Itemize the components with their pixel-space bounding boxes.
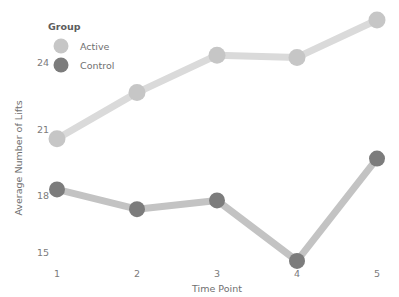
data-point-control-3[interactable] [209,192,225,208]
series-line-active [57,20,377,139]
y-tick-label-24: 24 [37,57,49,68]
legend-label-control[interactable]: Control [80,60,114,71]
series-line-control [57,159,377,261]
data-point-control-1[interactable] [49,181,65,197]
y-tick-label-18: 18 [37,190,49,201]
data-point-active-4[interactable] [289,49,306,66]
line-chart: 24 21 18 15 1 2 3 4 5 Time Point Average… [0,0,399,297]
data-point-control-2[interactable] [129,201,145,217]
x-tick-label-5: 5 [374,268,380,279]
legend-title: Group [48,21,81,32]
data-point-active-1[interactable] [49,130,66,147]
data-point-active-5[interactable] [369,12,386,29]
chart-canvas: 24 21 18 15 1 2 3 4 5 Time Point Average… [0,0,399,297]
x-tick-label-3: 3 [214,268,220,279]
series-markers-active [49,12,386,148]
x-tick-label-4: 4 [294,268,300,279]
legend-swatch-control[interactable] [54,58,69,73]
data-point-control-4[interactable] [289,253,305,269]
x-tick-label-2: 2 [134,268,140,279]
y-tick-label-15: 15 [37,247,49,258]
data-point-control-5[interactable] [369,151,385,167]
data-point-active-2[interactable] [129,84,146,101]
legend-swatch-active[interactable] [54,39,69,54]
y-tick-label-21: 21 [37,124,49,135]
legend-label-active[interactable]: Active [80,41,110,52]
x-tick-label-1: 1 [54,268,60,279]
data-point-active-3[interactable] [209,47,226,64]
y-axis-title: Average Number of Lifts [13,100,24,215]
x-axis-title: Time Point [191,283,242,294]
